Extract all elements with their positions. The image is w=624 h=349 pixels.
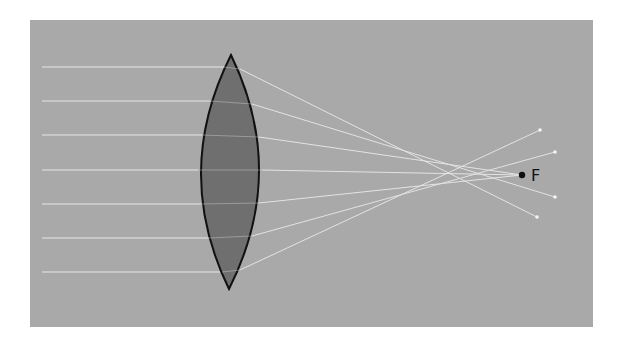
focal-point-dot [519, 172, 525, 178]
focal-point-label: F [531, 166, 540, 185]
lens-diagram: F [0, 0, 624, 349]
